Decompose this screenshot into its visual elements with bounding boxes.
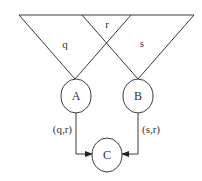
diagram-canvas: q r s A B (q,r) (s,r) C	[0, 0, 202, 181]
right-triangle-inner-side	[82, 15, 138, 79]
region-label-r: r	[105, 18, 109, 30]
region-label-s: s	[140, 37, 144, 49]
edge-b-to-c-label: (s,r)	[142, 123, 160, 136]
left-triangle-inner-side	[75, 15, 131, 79]
right-triangle-outer-side	[138, 15, 194, 79]
edge-a-to-c-label: (q,r)	[53, 123, 73, 136]
edge-a-to-c	[76, 113, 92, 154]
node-a-label: A	[72, 89, 81, 103]
node-c: C	[92, 138, 122, 172]
node-b-label: B	[134, 89, 142, 103]
node-c-label: C	[103, 148, 111, 162]
edge-b-to-c	[122, 113, 138, 154]
node-b: B	[123, 79, 153, 113]
region-label-q: q	[62, 38, 68, 50]
node-a: A	[61, 79, 91, 113]
